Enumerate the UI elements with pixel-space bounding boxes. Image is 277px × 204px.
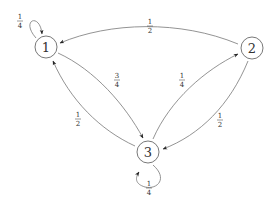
label-3-to-2: 1 4 <box>179 72 185 89</box>
svg-text:1: 1 <box>42 40 50 55</box>
svg-text:2: 2 <box>76 120 80 128</box>
svg-text:3: 3 <box>115 72 119 80</box>
label-1-to-3: 3 4 <box>114 72 120 89</box>
edge-3-to-2 <box>153 54 238 139</box>
svg-text:1: 1 <box>147 180 151 188</box>
label-3-to-3: 1 4 <box>146 180 152 197</box>
edge-1-to-3 <box>58 53 143 138</box>
svg-text:2: 2 <box>148 27 152 35</box>
label-2-to-3: 1 2 <box>217 112 223 129</box>
node-1: 1 <box>35 36 57 58</box>
label-1-to-1: 1 4 <box>17 13 23 30</box>
svg-text:3: 3 <box>144 145 152 160</box>
label-2-to-1: 1 2 <box>147 18 153 35</box>
svg-text:1: 1 <box>148 18 152 26</box>
markov-chain-diagram: 1 4 1 2 3 4 1 2 1 4 1 2 1 4 1 2 <box>0 0 277 204</box>
svg-text:1: 1 <box>180 72 184 80</box>
svg-text:4: 4 <box>115 81 120 89</box>
svg-text:2: 2 <box>248 41 256 56</box>
svg-text:1: 1 <box>18 13 22 21</box>
edge-3-to-1 <box>53 61 135 146</box>
edge-1-to-1 <box>30 21 42 38</box>
node-2: 2 <box>241 37 263 59</box>
svg-text:2: 2 <box>218 121 222 129</box>
svg-text:1: 1 <box>76 111 80 119</box>
svg-text:4: 4 <box>180 81 185 89</box>
label-3-to-1: 1 2 <box>75 111 81 128</box>
node-3: 3 <box>137 141 159 163</box>
svg-text:1: 1 <box>218 112 222 120</box>
svg-text:4: 4 <box>18 22 23 30</box>
svg-text:4: 4 <box>147 189 152 197</box>
